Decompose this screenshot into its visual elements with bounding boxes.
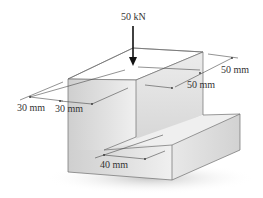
dim-label-left-inner: 30 mm <box>55 103 83 114</box>
load-label: 50 kN <box>121 11 146 22</box>
arrow-head-icon <box>129 57 137 66</box>
dim-label-right-outer: 50 mm <box>221 64 249 75</box>
dim-label-left-outer: 30 mm <box>17 102 45 113</box>
column-front-lower <box>68 79 136 150</box>
dim-label-right-inner: 50 mm <box>187 79 215 90</box>
dim-label-step-width: 40 mm <box>100 159 128 170</box>
diagram-canvas: 50 kN 30 mm 30 mm 50 mm 50 mm 40 mm <box>0 0 263 198</box>
load-arrow <box>129 26 137 66</box>
